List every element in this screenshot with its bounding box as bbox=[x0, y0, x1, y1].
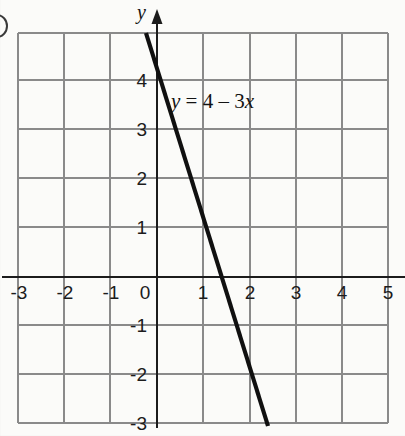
equation-equals: = bbox=[180, 89, 202, 113]
y-tick-label: -1 bbox=[113, 316, 147, 335]
y-tick-label: 2 bbox=[113, 169, 147, 188]
x-tick-label: -3 bbox=[8, 283, 30, 302]
x-tick-label: 0 bbox=[134, 283, 156, 302]
equation-annotation: y = 4 – 3x bbox=[171, 91, 254, 112]
equation-constant: 4 bbox=[203, 89, 214, 113]
equation-variable: x bbox=[245, 89, 254, 113]
equation-coefficient: 3 bbox=[234, 89, 245, 113]
y-tick-label: 1 bbox=[113, 218, 147, 237]
y-axis-arrow-icon bbox=[152, 9, 163, 24]
x-tick-label: -1 bbox=[100, 283, 122, 302]
y-tick-label: 3 bbox=[113, 120, 147, 139]
y-tick-label: -3 bbox=[113, 414, 147, 433]
equation-lhs: y bbox=[171, 89, 180, 113]
y-axis-label: y bbox=[137, 2, 146, 22]
equation-minus: – bbox=[213, 89, 234, 113]
x-tick-label: 4 bbox=[331, 283, 353, 302]
y-tick-label: 4 bbox=[113, 71, 147, 90]
x-tick-label: 2 bbox=[239, 283, 261, 302]
x-tick-label: 5 bbox=[377, 283, 399, 302]
y-tick-label: -2 bbox=[113, 365, 147, 384]
x-tick-label: 3 bbox=[285, 283, 307, 302]
x-tick-label: 1 bbox=[192, 283, 214, 302]
x-tick-label: -2 bbox=[54, 283, 76, 302]
graph-figure: y y = 4 – 3x -3 -2 -1 0 1 2 3 4 5 4 3 2 … bbox=[0, 0, 405, 436]
coordinate-plane bbox=[0, 0, 405, 436]
